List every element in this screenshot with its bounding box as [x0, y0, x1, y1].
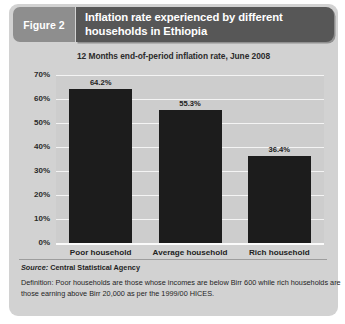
bar-value-label: 55.3%: [160, 99, 220, 108]
definition-line-1: Definition: Poor households are those wh…: [21, 278, 327, 289]
page-title: Inflation rate experienced by different …: [85, 11, 328, 38]
gridline: [56, 243, 324, 245]
source-label: Source:: [21, 263, 48, 272]
y-axis-tick-label: 60%: [16, 94, 50, 103]
y-axis-tick-label: 40%: [16, 142, 50, 151]
source-value: Central Statistical Agency: [50, 263, 140, 272]
y-axis-tick-label: 30%: [16, 166, 50, 175]
footer-divider: [19, 259, 327, 260]
figure-header: Figure 2 Inflation rate experienced by d…: [9, 4, 338, 44]
bar: [69, 89, 132, 243]
x-axis-category-label: Rich household: [224, 248, 334, 257]
definition-note: Definition: Poor households are those wh…: [21, 278, 327, 299]
gridline: [56, 75, 324, 76]
y-axis-tick-label: 50%: [16, 118, 50, 127]
figure-panel: Figure 2 Inflation rate experienced by d…: [0, 0, 345, 324]
figure-number-badge: Figure 2: [13, 7, 75, 42]
chart-subtitle: 12 Months end-of-period inflation rate, …: [9, 51, 338, 61]
bar: [159, 110, 222, 243]
source-note: Source: Central Statistical Agency: [21, 263, 140, 272]
chart-card: Figure 2 Inflation rate experienced by d…: [9, 4, 338, 316]
y-axis-tick-label: 70%: [16, 70, 50, 79]
bar: [248, 156, 311, 243]
bar-value-label: 64.2%: [71, 78, 131, 87]
y-axis-tick-label: 0%: [16, 238, 50, 247]
bar-chart: 0%10%20%30%40%50%60%70% 64.2%55.3%36.4% …: [16, 66, 332, 254]
figure-title-bar: Inflation rate experienced by different …: [76, 7, 334, 42]
definition-line-2: those earning above Birr 20,000 as per t…: [21, 289, 327, 300]
y-axis-tick-label: 20%: [16, 190, 50, 199]
bar-value-label: 36.4%: [249, 145, 309, 154]
y-axis-tick-label: 10%: [16, 214, 50, 223]
